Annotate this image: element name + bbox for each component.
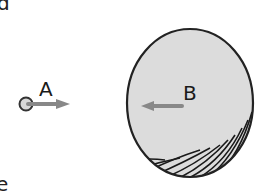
body-b: B: [127, 29, 258, 180]
force-diagram: A B: [0, 0, 263, 195]
label-b: B: [183, 81, 197, 105]
label-a: A: [39, 77, 53, 101]
body-a: A: [20, 77, 71, 111]
